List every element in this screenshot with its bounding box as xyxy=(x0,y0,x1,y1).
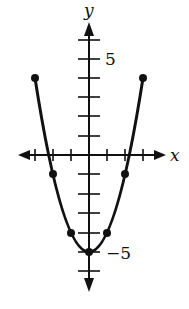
y-tick-label-neg5: −5 xyxy=(106,243,131,263)
x-axis-label: x xyxy=(170,145,180,165)
x-axis-left-arrow xyxy=(18,150,30,160)
y-axis-bottom-arrow xyxy=(84,278,94,292)
parabola-chart: y x 5 −5 xyxy=(0,0,189,309)
y-axis-top-arrow xyxy=(84,22,94,36)
y-tick-label-5: 5 xyxy=(105,49,116,69)
x-axis-right-arrow xyxy=(154,150,166,160)
y-axis-label: y xyxy=(83,0,94,20)
